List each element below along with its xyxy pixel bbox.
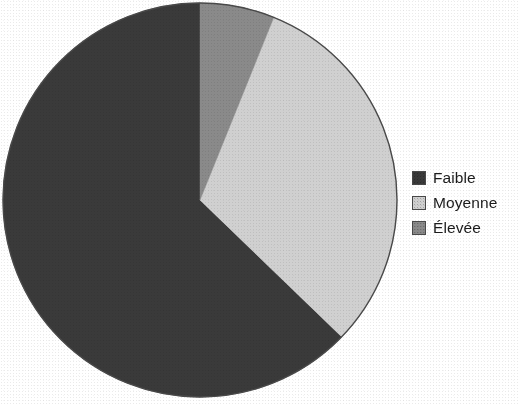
pie-chart-figure: Faible Moyenne Élevée bbox=[0, 0, 518, 404]
legend-label-moyenne: Moyenne bbox=[433, 195, 497, 211]
legend-label-faible: Faible bbox=[433, 170, 476, 186]
legend-label-elevee: Élevée bbox=[433, 220, 481, 236]
legend-item-faible[interactable]: Faible bbox=[412, 166, 516, 190]
pie-chart-svg bbox=[0, 0, 410, 404]
legend-swatch-elevee bbox=[412, 221, 426, 235]
chart-legend: Faible Moyenne Élevée bbox=[412, 166, 516, 241]
legend-swatch-moyenne bbox=[412, 196, 426, 210]
pie-chart-plot-area bbox=[0, 0, 410, 404]
legend-item-moyenne[interactable]: Moyenne bbox=[412, 191, 516, 215]
legend-item-elevee[interactable]: Élevée bbox=[412, 216, 516, 240]
pie-slice-group bbox=[3, 3, 397, 397]
legend-swatch-faible bbox=[412, 171, 426, 185]
